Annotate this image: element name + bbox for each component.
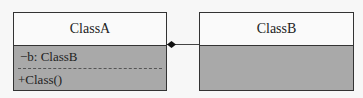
- class-a-method: +Class(): [18, 72, 62, 88]
- class-a-compartment-divider: [18, 68, 162, 69]
- class-b-box[interactable]: ClassB: [199, 12, 354, 91]
- class-a-name: ClassA: [70, 21, 110, 37]
- class-a-box[interactable]: ClassA −b: ClassB +Class(): [13, 12, 167, 91]
- class-a-attribute: −b: ClassB: [20, 49, 78, 65]
- class-a-header: ClassA: [14, 13, 166, 46]
- class-b-name: ClassB: [257, 21, 297, 37]
- composition-diamond-icon: [167, 41, 176, 48]
- class-b-header: ClassB: [200, 13, 353, 46]
